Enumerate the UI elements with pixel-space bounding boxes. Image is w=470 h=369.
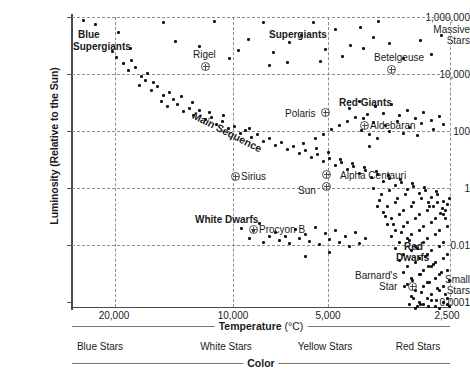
temperature-axis-title-main: Temperature [219, 320, 282, 332]
star-point [324, 48, 327, 51]
star-point [152, 81, 155, 84]
star-point [442, 241, 445, 244]
star-point [426, 209, 429, 212]
star-point [174, 40, 177, 43]
star-point [412, 185, 415, 188]
star-point [419, 39, 422, 42]
star-point [442, 301, 445, 304]
star-point [442, 257, 445, 260]
star-point [228, 57, 231, 60]
x-tick-label: 20,000 [99, 310, 130, 321]
star-point [382, 112, 385, 115]
star-point [448, 197, 451, 200]
star-point [414, 217, 417, 220]
star-marker-aldebaran [360, 121, 369, 130]
plot-left-axis-line [71, 14, 73, 310]
star-marker-barnards-star [408, 282, 417, 291]
star-point [428, 205, 431, 208]
star-point [292, 145, 295, 148]
star-label-procyon-b: Procyon B [259, 224, 305, 235]
star-point [248, 237, 251, 240]
star-point [419, 303, 422, 306]
star-point [352, 165, 355, 168]
star-point [394, 247, 397, 250]
star-point [268, 64, 271, 67]
star-point [430, 299, 433, 302]
star-marker-rigel [201, 62, 210, 71]
star-point [418, 229, 421, 232]
star-point [444, 293, 447, 296]
star-point [422, 269, 425, 272]
star-point [372, 187, 375, 190]
star-point [406, 221, 409, 224]
star-point [280, 141, 283, 144]
star-point [448, 279, 451, 282]
star-label-rigel: Rigel [193, 49, 216, 60]
star-point [386, 223, 389, 226]
star-point [394, 184, 397, 187]
star-point [402, 271, 405, 274]
star-point [406, 265, 409, 268]
star-point [150, 89, 153, 92]
star-point [198, 45, 201, 48]
star-point [349, 44, 352, 47]
star-point [430, 221, 433, 224]
star-point [434, 277, 437, 280]
star-point [322, 133, 325, 136]
star-point [420, 197, 423, 200]
star-point [344, 235, 347, 238]
star-point [354, 231, 357, 234]
star-point [388, 189, 391, 192]
star-point [435, 190, 438, 193]
star-point [358, 242, 361, 245]
star-point [316, 153, 319, 156]
star-point [286, 148, 289, 151]
color-category-label: Red Stars [396, 341, 440, 352]
star-point [366, 113, 369, 116]
star-point [298, 152, 301, 155]
star-point [448, 305, 451, 308]
star-point [442, 285, 445, 288]
region-label-red-dwarfs-line2: Dwarfs [396, 252, 429, 263]
star-point [240, 227, 243, 230]
star-point [288, 242, 291, 245]
star-marker-alpha-centauri [322, 170, 331, 179]
region-label-white-dwarfs: White Dwarfs [195, 214, 258, 225]
star-point [262, 21, 265, 24]
star-point [423, 186, 426, 189]
star-point [402, 132, 405, 135]
star-point [420, 122, 423, 125]
star-marker-sirius [231, 172, 240, 181]
star-point [444, 209, 447, 212]
star-point [376, 137, 379, 140]
star-point [338, 124, 341, 127]
star-point [162, 21, 165, 24]
star-point [348, 245, 351, 248]
star-point [156, 85, 159, 88]
temperature-axis-title: Temperature (°C) [215, 320, 308, 332]
star-point [422, 225, 425, 228]
star-point [134, 66, 137, 69]
star-point [117, 31, 120, 34]
star-point [398, 213, 401, 216]
star-point [138, 84, 141, 87]
star-point [324, 232, 327, 235]
plot-bottom-axis-line [71, 307, 451, 309]
star-point [424, 189, 427, 192]
star-point [122, 62, 125, 65]
star-point [398, 241, 401, 244]
star-point [442, 213, 445, 216]
star-point [363, 166, 366, 169]
star-point [334, 229, 337, 232]
gridline-horizontal [72, 131, 450, 132]
star-point [403, 285, 406, 288]
star-point [446, 253, 449, 256]
star-point [446, 297, 449, 300]
gridline-horizontal [72, 245, 450, 246]
star-point [400, 231, 403, 234]
gridline-horizontal [72, 17, 450, 18]
star-point [318, 243, 321, 246]
star-point [406, 188, 409, 191]
star-point [286, 61, 289, 64]
star-label-betelgeuse: Betelgeuse [374, 52, 424, 63]
